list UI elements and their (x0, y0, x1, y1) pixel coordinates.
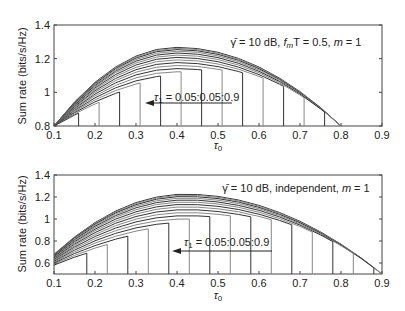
y-tick-label: 0.8 (35, 235, 50, 247)
x-axis-label: τ0 (214, 289, 223, 303)
x-tick-label: 0.7 (292, 129, 307, 141)
y-tick-label: 1.4 (35, 169, 50, 181)
arrow-head-icon (172, 248, 181, 254)
y-axis-label: Sum rate (bits/s/Hz) (16, 27, 28, 124)
x-tick-label: 0.5 (210, 277, 225, 289)
y-tick-label: 1 (44, 213, 50, 225)
x-tick-label: 0.9 (374, 129, 389, 141)
x-tick-label: 0.3 (128, 129, 143, 141)
plot-top: 0.10.20.30.40.50.60.70.80.90.811.21.4 γ̄… (16, 19, 390, 153)
y-tick-label: 0.6 (35, 257, 50, 269)
x-tick-label: 0.4 (169, 277, 184, 289)
y-tick-label: 1.2 (35, 53, 50, 65)
x-tick-label: 0.3 (128, 277, 143, 289)
x-tick-label: 0.4 (169, 129, 184, 141)
chart-canvas: 0.10.20.30.40.50.60.70.80.90.811.21.4 γ̄… (0, 0, 405, 311)
x-tick-label: 0.8 (333, 277, 348, 289)
x-axis-label: τ0 (214, 139, 223, 153)
y-tick-label: 1.4 (35, 19, 50, 31)
arrow-head-icon (145, 100, 154, 106)
x-tick-label: 0.2 (87, 129, 102, 141)
arrow-label: τ1 = 0.05:0.05:0.9 (184, 236, 269, 250)
y-tick-label: 1 (44, 86, 50, 98)
y-tick-label: 1.2 (35, 191, 50, 203)
x-tick-label: 0.8 (333, 129, 348, 141)
x-tick-label: 0.7 (292, 277, 307, 289)
plot-bottom: 0.10.20.30.40.50.60.70.80.90.60.811.21.4… (16, 169, 390, 303)
y-axis-label: Sum rate (bits/s/Hz) (16, 175, 28, 272)
x-tick-label: 0.2 (87, 277, 102, 289)
annotation: γ̄ = 10 dB, fmT = 0.5, m = 1 (231, 36, 362, 50)
x-tick-label: 0.1 (46, 277, 61, 289)
x-tick-label: 0.5 (210, 129, 225, 141)
annotation: γ̄ = 10 dB, independent, m = 1 (222, 182, 369, 194)
x-tick-label: 0.9 (374, 277, 389, 289)
x-tick-label: 0.6 (251, 277, 266, 289)
x-tick-label: 0.6 (251, 129, 266, 141)
y-tick-label: 0.8 (35, 120, 50, 132)
